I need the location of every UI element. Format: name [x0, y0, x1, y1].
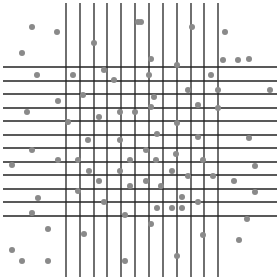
dot: [195, 199, 201, 205]
dot: [174, 253, 180, 259]
dot: [252, 163, 258, 169]
dot: [169, 205, 175, 211]
dot: [231, 178, 237, 184]
dot: [86, 168, 92, 174]
dot: [85, 137, 91, 143]
dot: [208, 72, 214, 78]
dot: [185, 173, 191, 179]
dot: [127, 183, 133, 189]
dot: [117, 168, 123, 174]
dot: [246, 56, 252, 62]
dot: [189, 24, 195, 30]
dot: [55, 98, 61, 104]
dot: [29, 210, 35, 216]
dot: [195, 102, 201, 108]
dot: [222, 29, 228, 35]
dot: [154, 131, 160, 137]
dot: [154, 205, 160, 211]
dot: [174, 62, 180, 68]
dot: [55, 157, 61, 163]
horizontal-grid-lines: [3, 67, 277, 216]
grid-dot-figure: [0, 0, 280, 277]
dot: [236, 237, 242, 243]
dot: [195, 134, 201, 140]
dot: [45, 226, 51, 232]
figure-graphic: [0, 0, 280, 277]
dot: [96, 114, 102, 120]
scatter-dots: [9, 19, 273, 264]
dot: [158, 183, 164, 189]
dot: [148, 221, 154, 227]
dot: [117, 137, 123, 143]
dot: [19, 50, 25, 56]
dot: [29, 24, 35, 30]
dot: [96, 178, 102, 184]
dot: [151, 94, 157, 100]
dot: [169, 168, 175, 174]
dot: [200, 232, 206, 238]
dot: [80, 92, 86, 98]
dot: [148, 104, 154, 110]
dot: [35, 195, 41, 201]
dot: [75, 157, 81, 163]
dot: [70, 72, 76, 78]
dot: [34, 72, 40, 78]
dot: [138, 19, 144, 25]
dot: [143, 178, 149, 184]
dot: [244, 216, 250, 222]
dot: [252, 189, 258, 195]
dot: [235, 57, 241, 63]
dot: [153, 157, 159, 163]
dot: [45, 258, 51, 264]
dot: [117, 109, 123, 115]
dot: [101, 199, 107, 205]
dot: [111, 77, 117, 83]
dot: [54, 29, 60, 35]
dot: [200, 157, 206, 163]
dot: [29, 147, 35, 153]
dot: [143, 147, 149, 153]
dot: [173, 151, 179, 157]
dot: [246, 135, 252, 141]
dot: [9, 162, 15, 168]
dot: [148, 56, 154, 62]
dot: [122, 212, 128, 218]
dot: [122, 258, 128, 264]
dot: [174, 120, 180, 126]
dot: [9, 247, 15, 253]
dot: [146, 72, 152, 78]
dot: [179, 194, 185, 200]
dot: [24, 109, 30, 115]
dot: [81, 231, 87, 237]
dot: [220, 57, 226, 63]
dot: [210, 173, 216, 179]
dot: [127, 157, 133, 163]
dot: [132, 109, 138, 115]
dot: [19, 258, 25, 264]
dot: [179, 205, 185, 211]
dot: [75, 188, 81, 194]
dot: [215, 87, 221, 93]
dot: [185, 87, 191, 93]
dot: [215, 105, 221, 111]
dot: [65, 119, 71, 125]
dot: [91, 40, 97, 46]
dot: [101, 67, 107, 73]
dot: [267, 87, 273, 93]
